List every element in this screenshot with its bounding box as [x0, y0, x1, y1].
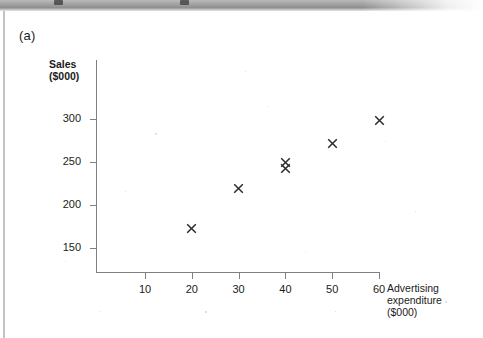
- x-tick-label-20: 20: [172, 283, 212, 295]
- scan-edge-band: [0, 0, 483, 11]
- y-tick-200: [90, 205, 97, 206]
- scan-artifact-right: [180, 0, 189, 5]
- y-axis-title-line-2: ($000): [49, 70, 79, 82]
- paper-speck: [335, 311, 336, 312]
- paper-speck: [155, 133, 157, 135]
- paper-speck: [305, 251, 306, 252]
- y-axis-line: [96, 60, 97, 273]
- paper-speck: [125, 191, 126, 192]
- y-axis-title-line-1: Sales: [49, 58, 79, 70]
- x-tick-label-50: 50: [312, 283, 352, 295]
- paper-speck: [65, 261, 66, 262]
- figure-page: (a) Sales ($000) 150200250300 1020304050…: [0, 0, 483, 338]
- x-axis-title-line-1: Advertising: [387, 282, 483, 294]
- x-tick-40: [285, 272, 286, 279]
- paper-speck: [205, 311, 207, 313]
- y-tick-label-200: 200: [35, 198, 81, 210]
- paper-speck: [267, 106, 268, 107]
- x-tick-10: [145, 272, 146, 279]
- y-tick-250: [90, 162, 97, 163]
- scatter-plot: Sales ($000) 150200250300 102030405060 A…: [5, 11, 483, 338]
- y-tick-150: [90, 248, 97, 249]
- scan-glare: [363, 0, 483, 11]
- data-point: [374, 115, 385, 126]
- x-tick-30: [239, 272, 240, 279]
- x-axis-title-line-3: ($000): [387, 306, 483, 318]
- x-tick-label-30: 30: [219, 283, 259, 295]
- x-tick-label-10: 10: [125, 283, 165, 295]
- y-tick-label-300: 300: [35, 112, 81, 124]
- y-tick-label-250: 250: [35, 155, 81, 167]
- y-tick-label-150: 150: [35, 241, 81, 253]
- data-point: [233, 183, 244, 194]
- paper-speck: [245, 71, 246, 72]
- paper-speck: [415, 211, 416, 212]
- paper-speck: [385, 141, 386, 142]
- paper-speck: [100, 311, 101, 312]
- y-tick-300: [90, 119, 97, 120]
- data-point: [186, 223, 197, 234]
- x-axis-title-line-2: expenditure: [387, 294, 483, 306]
- figure-sheet: (a) Sales ($000) 150200250300 1020304050…: [5, 11, 483, 338]
- x-axis-title: Advertising expenditure ($000): [387, 282, 483, 318]
- x-tick-50: [332, 272, 333, 279]
- paper-speck: [445, 301, 447, 303]
- x-tick-label-40: 40: [265, 283, 305, 295]
- scan-artifact-left: [54, 0, 63, 5]
- y-axis-title: Sales ($000): [49, 58, 79, 82]
- data-point: [280, 163, 291, 174]
- x-tick-60: [379, 272, 380, 279]
- data-point: [327, 138, 338, 149]
- x-tick-20: [192, 272, 193, 279]
